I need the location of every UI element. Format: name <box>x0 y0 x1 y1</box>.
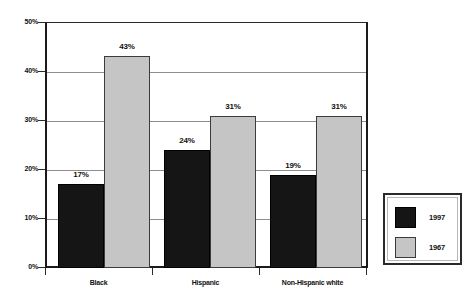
bar-label-nonhispanicwhite-1967: 31% <box>316 102 362 111</box>
legend-item-1997: 1997 <box>395 207 459 229</box>
y-tick-label-10: 10% <box>12 214 38 222</box>
bars-layer: 17% 43% 24% 31% 19% 31% <box>47 22 366 268</box>
x-tick-1 <box>152 268 153 275</box>
y-tick-mark-10 <box>38 218 45 219</box>
legend-swatch-1997 <box>395 207 416 228</box>
legend-swatch-1967 <box>395 237 416 258</box>
bar-hispanic-1997 <box>164 150 210 268</box>
y-tick-mark-0 <box>38 267 45 268</box>
y-tick-label-40: 40% <box>12 67 38 75</box>
bar-label-black-1997: 17% <box>58 170 104 179</box>
y-tick-label-0: 0% <box>12 263 38 271</box>
x-tick-3 <box>366 268 367 275</box>
y-tick-mark-40 <box>38 71 45 72</box>
y-tick-mark-20 <box>38 169 45 170</box>
x-label-black: Black <box>45 279 152 287</box>
x-label-nonhispanic-white: Non-Hispanic white <box>259 279 366 287</box>
y-tick-label-20: 20% <box>12 165 38 173</box>
y-axis: 50% 40% 30% 20% 10% 0% <box>10 22 38 268</box>
legend: 1997 1967 <box>383 193 462 265</box>
bar-nonhispanicwhite-1997 <box>270 175 316 269</box>
bar-label-black-1967: 43% <box>104 42 150 51</box>
bar-label-nonhispanicwhite-1997: 19% <box>270 161 316 170</box>
legend-inner-border: 1997 1967 <box>387 197 458 261</box>
bar-hispanic-1967 <box>210 116 256 269</box>
x-tick-2 <box>259 268 260 275</box>
bar-black-1997 <box>58 184 104 268</box>
y-tick-mark-50 <box>38 22 45 23</box>
legend-label-1967: 1967 <box>429 243 445 252</box>
legend-label-1997: 1997 <box>429 213 445 222</box>
legend-item-1967: 1967 <box>395 237 459 259</box>
x-label-hispanic: Hispanic <box>152 279 259 287</box>
y-tick-label-30: 30% <box>12 116 38 124</box>
bar-nonhispanicwhite-1967 <box>316 116 362 269</box>
y-tick-mark-30 <box>38 120 45 121</box>
bar-label-hispanic-1967: 31% <box>210 102 256 111</box>
bar-label-hispanic-1997: 24% <box>164 136 210 145</box>
x-tick-0 <box>45 268 46 275</box>
y-tick-label-50: 50% <box>12 18 38 26</box>
bar-black-1967 <box>104 56 150 268</box>
bar-chart: 50% 40% 30% 20% 10% 0% 17% 43% 24% 31% 1… <box>0 0 469 301</box>
